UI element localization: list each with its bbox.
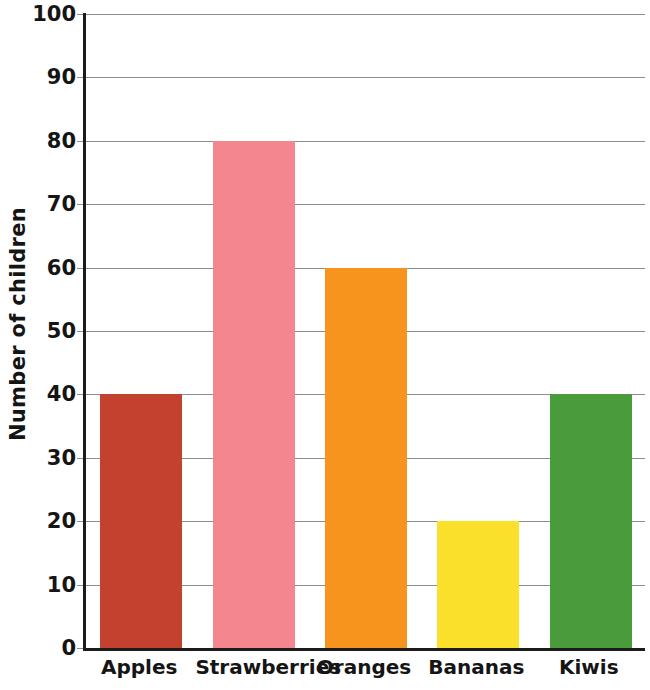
y-axis-tick-label: 70: [4, 192, 76, 216]
x-axis-label-bananas: Bananas: [420, 655, 532, 679]
bar-oranges: [325, 268, 407, 648]
bar-bananas: [437, 521, 519, 648]
bar-strawberries: [213, 141, 295, 648]
x-axis-label-apples: Apples: [83, 655, 195, 679]
gridline: [83, 141, 645, 142]
bar-chart: Number of children 010203040506070809010…: [0, 0, 650, 690]
plot-area: [83, 14, 645, 648]
x-axis-label-kiwis: Kiwis: [533, 655, 645, 679]
y-axis-tick-label: 80: [4, 129, 76, 153]
y-axis-tick-label: 20: [4, 509, 76, 533]
x-axis-labels: ApplesStrawberriesOrangesBananasKiwis: [83, 655, 645, 690]
y-axis-tick-label: 100: [4, 2, 76, 26]
y-axis-tick-label: 10: [4, 573, 76, 597]
y-axis-line: [83, 13, 86, 650]
y-axis-ticks: 0102030405060708090100: [0, 14, 76, 648]
bar-kiwis: [550, 394, 632, 648]
gridline: [83, 204, 645, 205]
x-axis-line: [83, 648, 645, 651]
y-axis-tick-label: 40: [4, 382, 76, 406]
gridline: [83, 77, 645, 78]
y-axis-tick-label: 0: [4, 636, 76, 660]
x-axis-label-strawberries: Strawberries: [195, 655, 307, 679]
y-axis-tick-label: 50: [4, 319, 76, 343]
gridline: [83, 14, 645, 15]
y-axis-tick-label: 90: [4, 65, 76, 89]
y-axis-tick-label: 60: [4, 256, 76, 280]
x-axis-label-oranges: Oranges: [308, 655, 420, 679]
y-axis-tick-label: 30: [4, 446, 76, 470]
bar-apples: [100, 394, 182, 648]
